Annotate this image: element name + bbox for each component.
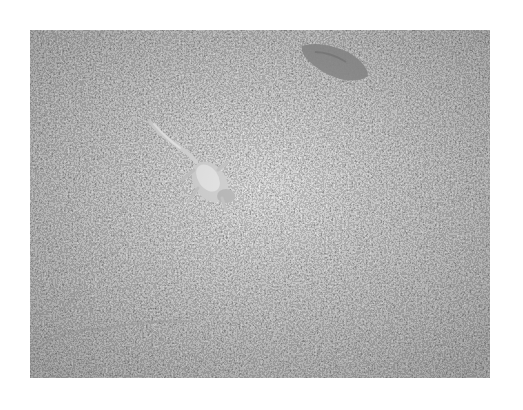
photograph — [30, 30, 490, 378]
gravel-scene — [30, 30, 490, 378]
vignette — [30, 30, 490, 378]
